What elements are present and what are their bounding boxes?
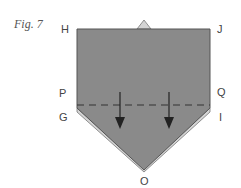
label-H: H [61, 23, 69, 35]
origami-diagram: Fig. 7 H J P Q G I O [0, 0, 241, 188]
label-J: J [217, 23, 223, 35]
label-P: P [59, 87, 66, 99]
figure-caption: Fig. 7 [13, 17, 44, 31]
label-G: G [59, 111, 68, 123]
paper-front-face [77, 29, 210, 170]
label-Q: Q [217, 86, 226, 98]
top-point-flap [137, 20, 151, 29]
label-O: O [140, 175, 149, 187]
label-I: I [219, 111, 222, 123]
